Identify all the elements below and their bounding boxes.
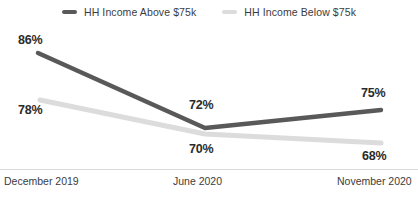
data-label-below-november-2020: 68%: [362, 149, 386, 163]
line-chart: HH Income Above $75k HH Income Below $75…: [0, 0, 418, 197]
data-label-below-june-2020: 70%: [189, 142, 213, 156]
data-label-below-december-2019: 78%: [18, 103, 42, 117]
x-tick-december-2019: December 2019: [4, 174, 79, 188]
x-axis-tick-labels: December 2019 June 2020 November 2020: [0, 174, 418, 194]
data-label-above-november-2020: 75%: [361, 86, 385, 100]
series-line-above: [38, 53, 381, 128]
x-tick-june-2020: June 2020: [173, 174, 222, 188]
x-tick-november-2020: November 2020: [337, 174, 412, 188]
data-label-above-june-2020: 72%: [189, 98, 213, 112]
data-label-above-december-2019: 86%: [18, 33, 42, 47]
x-axis-rule: [0, 169, 418, 170]
